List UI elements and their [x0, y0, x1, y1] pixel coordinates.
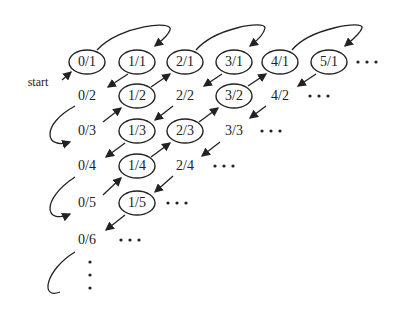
node-1-1: 1/1 — [128, 54, 146, 70]
start-label: start — [28, 75, 49, 90]
node-3-2: 3/2 — [225, 88, 243, 104]
node-1-4: 1/4 — [128, 158, 146, 174]
node-0-1: 0/1 — [78, 54, 96, 70]
node-1-3: 1/3 — [128, 123, 146, 139]
diagram-canvas — [0, 0, 415, 311]
node-2-1: 2/1 — [176, 54, 194, 70]
node-3-3: 3/3 — [225, 123, 243, 139]
node-4-1: 4/1 — [271, 54, 289, 70]
node-5-1: 5/1 — [320, 54, 338, 70]
node-2-3: 2/3 — [176, 123, 194, 139]
node-0-6: 0/6 — [78, 232, 96, 248]
node-1-2: 1/2 — [128, 88, 146, 104]
node-3-1: 3/1 — [225, 54, 243, 70]
node-2-2: 2/2 — [176, 88, 194, 104]
node-4-2: 4/2 — [271, 88, 289, 104]
node-0-3: 0/3 — [78, 123, 96, 139]
node-1-5: 1/5 — [128, 195, 146, 211]
ellipses — [69, 50, 347, 215]
node-0-4: 0/4 — [78, 158, 96, 174]
node-0-5: 0/5 — [78, 195, 96, 211]
node-0-2: 0/2 — [78, 88, 96, 104]
node-2-4: 2/4 — [176, 158, 194, 174]
